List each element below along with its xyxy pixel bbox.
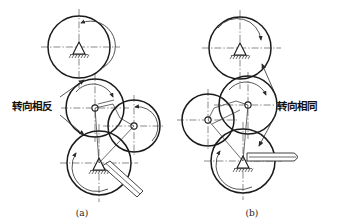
link-bar-outline (212, 110, 240, 124)
link-middle-to-right (95, 104, 134, 126)
panel-b-linkage (208, 101, 248, 161)
rotation-arrow-cw-icon (229, 82, 266, 95)
panel-a-top-wheel (41, 9, 120, 88)
panel-b: 转向相同 (b) (177, 10, 317, 218)
leader-upper (60, 80, 84, 97)
link-middle-to-bottom (95, 108, 99, 163)
link-left-to-middle (208, 101, 248, 120)
panel-a: 转向相反 (a) (12, 9, 165, 218)
figure-root: 转向相反 (a) (0, 0, 341, 223)
link-bar-outline (98, 100, 114, 104)
lever-handle (247, 153, 298, 161)
lever-handle (102, 161, 143, 197)
rotation-arrow-cw-icon (218, 18, 261, 40)
link-left-to-bottom (208, 120, 243, 161)
panel-b-caption: (b) (246, 208, 259, 218)
rotation-arrow-cw-icon (76, 84, 113, 97)
leader-lower (60, 115, 84, 135)
panel-a-caption: (a) (76, 208, 88, 218)
annotation-label-same: 转向相同 (277, 100, 317, 112)
rotation-arrow-ccw-icon (135, 107, 158, 141)
mechanism-diagram-svg: 转向相反 (a) (0, 0, 341, 223)
annotation-label-opposite: 转向相反 (12, 100, 53, 112)
